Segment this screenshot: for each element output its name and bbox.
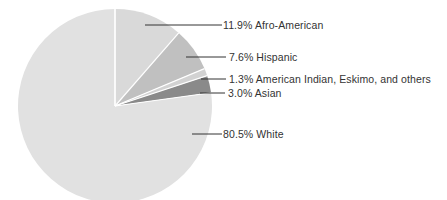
label-afro-american: 11.9% Afro-American: [223, 19, 323, 31]
label-hispanic: 7.6% Hispanic: [229, 51, 297, 63]
label-asian: 3.0% Asian: [228, 87, 282, 99]
label-white: 80.5% White: [223, 128, 284, 140]
label-american-indian: 1.3% American Indian, Eskimo, and others: [229, 73, 431, 85]
